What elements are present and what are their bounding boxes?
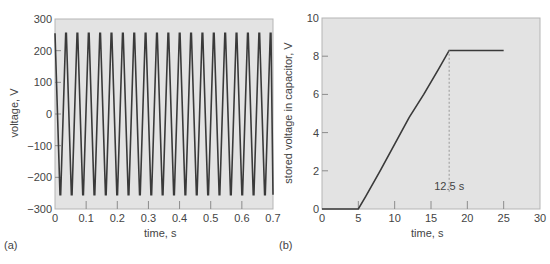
panel-label: (b) (279, 239, 292, 251)
x-tick-label: 0.1 (78, 212, 93, 224)
x-axis-title: time, s (144, 227, 176, 239)
voltage-chart: 00.10.20.30.40.50.60.7−300−200−100010020… (0, 0, 275, 264)
panel-label: (a) (4, 239, 17, 251)
x-tick-label: 0.4 (172, 212, 187, 224)
y-tick-label: 10 (307, 12, 319, 24)
y-tick-label: 6 (313, 88, 319, 100)
capacitor-voltage-chart: 051015202530024681012.5 s (275, 0, 550, 264)
x-tick-label: 0.6 (234, 212, 249, 224)
figure-b: 051015202530024681012.5 s stored voltage… (275, 0, 550, 264)
y-tick-label: −100 (27, 140, 52, 152)
y-tick-label: −300 (27, 203, 52, 215)
y-tick-label: 0 (46, 108, 52, 120)
y-tick-label: 200 (34, 45, 52, 57)
x-tick-label: 0 (319, 212, 325, 224)
figure-a: 00.10.20.30.40.50.60.7−300−200−100010020… (0, 0, 275, 264)
x-tick-label: 0.2 (110, 212, 125, 224)
y-tick-label: 4 (313, 127, 319, 139)
y-tick-label: 100 (34, 76, 52, 88)
x-tick-label: 10 (389, 212, 401, 224)
x-tick-label: 0.5 (203, 212, 218, 224)
y-tick-label: 0 (313, 203, 319, 215)
x-tick-label: 5 (355, 212, 361, 224)
y-tick-label: 8 (313, 50, 319, 62)
y-tick-label: −200 (27, 171, 52, 183)
x-tick-label: 0 (52, 212, 58, 224)
y-tick-label: 2 (313, 165, 319, 177)
x-tick-label: 15 (425, 212, 437, 224)
x-axis-title: time, s (411, 227, 443, 239)
x-tick-label: 25 (498, 212, 510, 224)
x-tick-label: 0.3 (141, 212, 156, 224)
x-tick-label: 30 (534, 212, 546, 224)
y-tick-label: 300 (34, 13, 52, 25)
annotation-label: 12.5 s (434, 180, 464, 192)
x-tick-label: 20 (461, 212, 473, 224)
plot-area (322, 18, 540, 209)
